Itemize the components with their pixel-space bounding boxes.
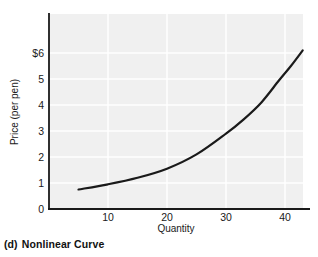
- y-tick-2: 2: [38, 151, 44, 163]
- plot-background: [49, 14, 303, 209]
- y-tick-1: 1: [38, 177, 44, 189]
- y-tick-6: $6: [32, 47, 44, 59]
- y-tick-3: 3: [38, 125, 44, 137]
- y-axis-title: Price (per pen): [9, 79, 20, 145]
- x-tick-10: 10: [102, 211, 114, 223]
- y-tick-4: 4: [38, 99, 44, 111]
- y-tick-labels: 012345$6: [32, 47, 44, 215]
- y-tick-0: 0: [38, 203, 44, 215]
- x-tick-20: 20: [161, 211, 173, 223]
- caption-text: Nonlinear Curve: [22, 238, 105, 250]
- chart-canvas: 012345$6 10203040 Price (per pen) Quanti…: [0, 0, 318, 257]
- x-tick-40: 40: [279, 211, 291, 223]
- x-tick-labels: 10203040: [102, 211, 291, 223]
- y-tick-5: 5: [38, 73, 44, 85]
- x-tick-30: 30: [220, 211, 232, 223]
- figure-nonlinear-curve: 012345$6 10203040 Price (per pen) Quanti…: [0, 0, 318, 257]
- caption-index: (d): [4, 238, 18, 250]
- x-axis-title: Quantity: [157, 223, 194, 234]
- figure-caption: (d)Nonlinear Curve: [4, 238, 104, 250]
